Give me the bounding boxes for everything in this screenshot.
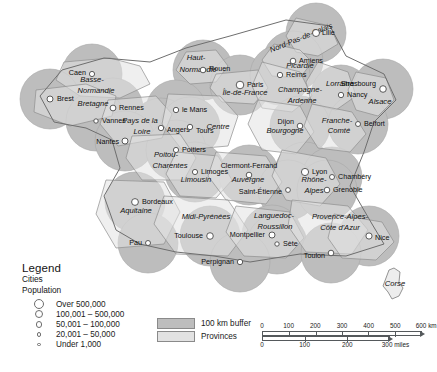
scale-tick-label: 300 miles xyxy=(382,341,409,348)
scale-tick xyxy=(395,332,396,337)
swatch-label: 100 km buffer xyxy=(201,319,251,328)
population-circle-symbol xyxy=(22,299,56,309)
scale-tick-label: 100 xyxy=(283,322,294,329)
swatch-legend: 100 km bufferProvinces xyxy=(157,318,251,344)
city-label: le Mans xyxy=(182,105,208,114)
population-circle-symbol xyxy=(22,332,56,337)
province-label: Alsace xyxy=(368,97,392,106)
city-marker[interactable] xyxy=(47,96,53,102)
swatch-color-box xyxy=(157,318,195,329)
population-class-row: 100,001 – 500,000 xyxy=(22,309,172,319)
city-marker[interactable] xyxy=(356,122,361,127)
city-label: Toulon xyxy=(304,251,325,260)
city-marker[interactable] xyxy=(110,105,116,111)
city-marker[interactable] xyxy=(173,107,178,112)
city-marker[interactable] xyxy=(207,233,214,240)
scale-tick-label: 600 km xyxy=(416,322,437,329)
province-label: Normandie xyxy=(77,86,114,95)
province-label: Languedoc- xyxy=(254,211,295,220)
province-label: Bretagne xyxy=(78,99,109,108)
scale-tick-label: 100 xyxy=(299,341,310,348)
scale-tick-label: 200 xyxy=(310,322,321,329)
legend-title: Legend xyxy=(22,262,172,274)
city-marker[interactable] xyxy=(237,259,242,264)
city-marker[interactable] xyxy=(187,124,192,129)
legend: Legend Cities Population Over 500,000100… xyxy=(22,262,172,350)
city-marker[interactable] xyxy=(200,67,206,73)
city-marker[interactable] xyxy=(290,58,296,64)
province-label: Côte d'Azur xyxy=(320,223,360,232)
legend-subtitle-cities: Cities xyxy=(22,274,172,285)
city-label: Nice xyxy=(375,233,389,242)
city-marker[interactable] xyxy=(366,233,372,239)
city-label: Nancy xyxy=(347,90,368,99)
province-label: Franche- xyxy=(322,116,353,125)
city-marker[interactable] xyxy=(380,86,387,93)
city-marker[interactable] xyxy=(286,188,291,193)
city-marker[interactable] xyxy=(275,242,279,246)
population-circle-symbol xyxy=(22,321,56,328)
scale-tick-label: 300 xyxy=(337,322,348,329)
city-label: Montpellier xyxy=(230,230,266,239)
city-marker[interactable] xyxy=(132,199,139,206)
city-marker[interactable] xyxy=(246,172,252,178)
city-label: Belfort xyxy=(364,119,385,128)
city-label: Brest xyxy=(57,94,74,103)
city-marker[interactable] xyxy=(338,92,343,97)
population-circle-symbol xyxy=(22,343,56,346)
city-marker[interactable] xyxy=(330,175,335,180)
city-marker[interactable] xyxy=(324,187,330,193)
city-label: Grenoble xyxy=(333,185,363,194)
province-label: Corse xyxy=(385,279,405,288)
scale-tick-label: 200 xyxy=(342,341,353,348)
city-marker[interactable] xyxy=(236,81,244,89)
swatch-row: Provinces xyxy=(157,331,251,342)
population-class-list: Over 500,000100,001 – 500,00050,001 – 10… xyxy=(22,299,172,350)
population-class-row: Over 500,000 xyxy=(22,299,172,309)
swatch-label: Provinces xyxy=(201,332,237,341)
city-marker[interactable] xyxy=(269,232,275,238)
city-label: Rennes xyxy=(119,103,144,112)
province-label: Alpes xyxy=(304,186,324,195)
province-label: Ardenne xyxy=(287,96,317,105)
population-class-row: Under 1,000 xyxy=(22,340,172,350)
city-marker[interactable] xyxy=(122,138,128,144)
city-label: Perpignan xyxy=(201,257,234,266)
city-label: Sète xyxy=(283,239,298,248)
province-label: Midi-Pyrénées xyxy=(182,212,231,221)
city-label: Strasbourg xyxy=(341,79,376,88)
city-marker[interactable] xyxy=(301,168,308,175)
scale-tick-label: 0 xyxy=(260,322,264,329)
city-label: Saint-Étienne xyxy=(239,187,282,196)
city-label: Poitiers xyxy=(182,145,206,154)
province-label: Champagne- xyxy=(278,85,322,94)
province-label: Aquitaine xyxy=(119,206,152,215)
map-canvas: Nord-Pas-de-CalaisPicardieHaut-Normandie… xyxy=(0,0,428,300)
scale-tick-label: 400 xyxy=(363,322,374,329)
city-label: Bordeaux xyxy=(142,197,173,206)
city-marker[interactable] xyxy=(297,123,303,129)
province-label: Loire xyxy=(134,127,151,136)
city-label: Vannes xyxy=(102,116,126,125)
city-label: Chambéry xyxy=(338,172,372,181)
city-marker[interactable] xyxy=(146,241,151,246)
city-marker[interactable] xyxy=(94,119,98,123)
city-marker[interactable] xyxy=(277,72,282,77)
city-marker[interactable] xyxy=(158,125,163,130)
population-class-label: Over 500,000 xyxy=(56,300,106,309)
population-class-label: 20,001 – 50,000 xyxy=(56,330,115,339)
city-marker[interactable] xyxy=(89,71,94,76)
city-label: Pau xyxy=(129,238,142,247)
city-marker[interactable] xyxy=(173,147,178,152)
city-marker[interactable] xyxy=(192,169,197,174)
province-label: Haut- xyxy=(187,53,206,62)
city-marker[interactable] xyxy=(328,250,334,256)
city-label: Lyon xyxy=(312,167,327,176)
city-label: Nantes xyxy=(96,137,119,146)
province-label: Provence-Alpes- xyxy=(312,212,369,221)
legend-subtitle-population: Population xyxy=(22,285,172,296)
city-label: Rouen xyxy=(209,64,230,73)
swatch-color-box xyxy=(157,331,195,342)
city-marker[interactable] xyxy=(313,30,320,37)
city-label: Tours xyxy=(196,126,214,135)
